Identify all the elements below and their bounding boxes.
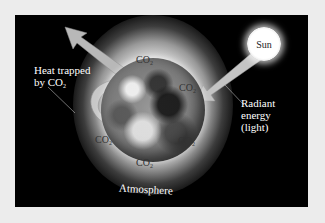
co2-label-upper-right: CO2: [179, 83, 196, 96]
heat-trapped-label: Heat trapped by CO2: [34, 64, 91, 92]
co2-label-bottom: CO2: [136, 158, 153, 171]
co2-label-top: CO2: [136, 55, 153, 68]
sun-icon: Sun: [247, 27, 281, 61]
co2-label-lower-left: CO2: [95, 135, 112, 148]
sun-label: Sun: [256, 39, 272, 50]
co2-label-lower-right: CO2: [178, 136, 195, 149]
radiant-energy-label: Radiant energy (light): [241, 97, 275, 133]
diagram-frame: CO2 CO2 CO2 CO2 CO2 Heat trapped by CO2 …: [15, 15, 308, 207]
radiant-energy-arrow: [197, 52, 261, 101]
